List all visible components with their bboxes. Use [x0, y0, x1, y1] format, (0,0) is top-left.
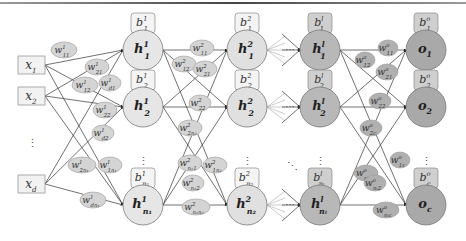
between-layer-ellipsis: ··· — [285, 199, 295, 210]
nodes: ·········⋱x1x2xd⋮b11h11b12h12b1n₁h1n₁⋮b2… — [18, 13, 446, 225]
hidden-layer-l-ellipsis: ⋮ — [315, 155, 326, 168]
weight-weights_output-1: wo12 — [355, 52, 375, 68]
hidden-layer-l-neuron-2: bl2hl2 — [300, 70, 340, 127]
hidden-layer-1-neuron-1: b11h11 — [123, 13, 163, 70]
hidden-layer-l-neuron-1: bl1hl1 — [300, 13, 340, 70]
neural-network-diagram: ·········⋱x1x2xd⋮b11h11b12h12b1n₁h1n₁⋮b2… — [0, 0, 466, 241]
hidden-layer-l-neuron-3: blnₗhlnₗ — [300, 168, 340, 225]
input-node-x1: x1 — [18, 56, 45, 75]
weight-weights_layer1-2: w112 — [72, 77, 98, 93]
between-layer-ellipsis: ··· — [285, 44, 295, 55]
hidden-layer-2-ellipsis: ⋮ — [242, 155, 253, 168]
weight-weights_layer1-8: w1dn₁ — [80, 192, 106, 208]
hidden-layer-2-neuron-1: b21h21 — [227, 13, 267, 70]
hidden-layer-2-neuron-3: b2n₂h2n₂ — [227, 168, 267, 225]
weight-weights_layer2-3: w222 — [189, 95, 211, 111]
weight-weights_layer2-7: w2n₁2 — [182, 175, 204, 191]
weight-weights_layer2-8: w2n₁n₂ — [182, 199, 210, 215]
weight-weights_layer1-7: w11n₁ — [98, 157, 122, 173]
weight-weights_layer1-6: w12n₁ — [68, 157, 96, 173]
weight-weights_layer2-2: w221 — [193, 61, 217, 77]
weight-weights_output-4: wo2c — [360, 120, 382, 136]
weight-weights_output-2: wo21 — [376, 64, 398, 80]
diagonal-ellipsis: ⋱ — [287, 160, 298, 173]
weight-weights_layer1-0: w111 — [51, 42, 77, 58]
weight-weights_layer2-0: w211 — [190, 40, 214, 56]
hidden-layer-1-neuron-3: b1n₁h1n₁ — [123, 168, 163, 225]
weight-weights_layer1-1: w121 — [85, 59, 109, 75]
weight-weights_layer2-6: w21n₂ — [203, 157, 227, 173]
weight-weights_output-8: wonₗc — [373, 202, 399, 218]
hidden-layer-1-neuron-2: b12h12 — [123, 70, 163, 127]
between-layer-ellipsis: ··· — [285, 101, 295, 112]
weight-weights_layer1-3: w1d1 — [99, 75, 121, 91]
output-layer-neuron-2: bo2o2 — [406, 70, 446, 127]
weight-weights_output-7: wonₗ2 — [364, 175, 386, 191]
hidden-layer-2-neuron-2: b22h22 — [227, 70, 267, 127]
weight-weights_layer1-5: w1d2 — [92, 125, 114, 141]
weight-weights_layer2-1: w212 — [172, 56, 196, 72]
output-layer-ellipsis: ⋮ — [421, 155, 432, 168]
neuron-circle — [123, 185, 163, 225]
weight-weights_layer1-4: w122 — [93, 102, 117, 118]
input-node-xd: xd — [18, 175, 45, 194]
weight-weights_layer2-5: w2n₁1 — [178, 155, 202, 171]
input-ellipsis: ⋮ — [27, 137, 38, 150]
hidden-layer-1-ellipsis: ⋮ — [138, 155, 149, 168]
neuron-circle — [227, 185, 267, 225]
output-layer-neuron-3: bococ — [406, 168, 446, 225]
weight-weights_output-0: wo11 — [378, 40, 398, 56]
weight-weights_output-3: wo22 — [369, 93, 391, 109]
weight-weights_layer2-4: w22n₂ — [178, 120, 202, 136]
input-node-x2: x2 — [18, 87, 45, 106]
output-layer-neuron-1: bo1o1 — [406, 13, 446, 70]
weight-weights_output-6: wo1c — [390, 152, 410, 168]
